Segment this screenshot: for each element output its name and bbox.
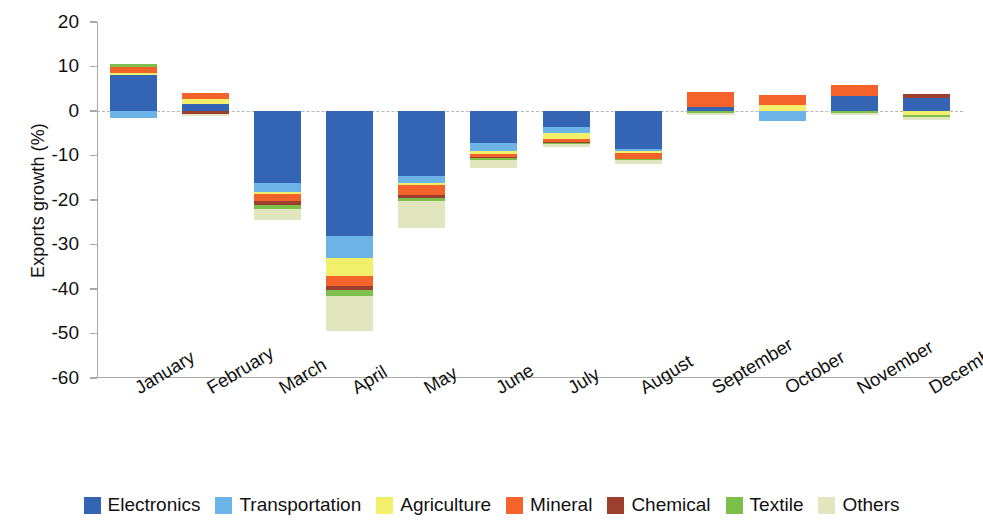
y-tick-mark: -40	[90, 288, 97, 289]
bar-segment	[110, 73, 157, 75]
bar-group[interactable]	[615, 22, 662, 378]
x-tick-label-october: October	[781, 380, 792, 399]
legend-item-others[interactable]: Others	[818, 494, 899, 516]
bar-segment	[470, 160, 517, 168]
bar-segment	[182, 93, 229, 99]
x-tick-label-december: December	[925, 380, 936, 399]
bar-segment	[759, 111, 806, 121]
y-tick-label: -10	[52, 144, 79, 166]
y-tick-label: -20	[52, 189, 79, 211]
bar-segment	[543, 111, 590, 127]
y-tick-mark: 0	[90, 110, 97, 111]
legend-item-transportation[interactable]: Transportation	[215, 494, 361, 516]
bar-segment	[903, 98, 950, 111]
legend-label: Electronics	[108, 494, 201, 516]
y-axis-line	[97, 22, 98, 378]
bar-group[interactable]	[398, 22, 445, 378]
legend-swatch-icon	[726, 497, 743, 514]
bar-segment	[110, 67, 157, 73]
y-tick-mark: -60	[90, 377, 97, 378]
y-axis-title: Exports growth (%)	[28, 71, 49, 331]
bar-segment	[903, 117, 950, 120]
x-tick-label-january: January	[131, 380, 142, 399]
bar-segment	[326, 276, 373, 286]
bar-segment	[831, 113, 878, 115]
y-tick-mark: -10	[90, 155, 97, 156]
legend-swatch-icon	[506, 497, 523, 514]
y-tick-mark: -50	[90, 333, 97, 334]
bar-group[interactable]	[470, 22, 517, 378]
bar-group[interactable]	[254, 22, 301, 378]
y-tick-label: 0	[68, 100, 79, 122]
bar-group[interactable]	[182, 22, 229, 378]
y-tick-mark: -30	[90, 244, 97, 245]
bar-segment	[615, 160, 662, 164]
x-tick-label-april: April	[348, 380, 359, 399]
y-tick-label: -50	[52, 322, 79, 344]
legend-item-chemical[interactable]: Chemical	[607, 494, 710, 516]
legend-swatch-icon	[376, 497, 393, 514]
bar-segment	[470, 111, 517, 143]
bar-segment	[326, 296, 373, 331]
x-tick-label-february: February	[203, 380, 214, 399]
x-tick-label-september: September	[708, 380, 719, 399]
bar-segment	[398, 201, 445, 227]
legend-label: Others	[842, 494, 899, 516]
bar-segment	[254, 183, 301, 191]
bar-segment	[398, 111, 445, 176]
y-tick-label: -60	[52, 367, 79, 389]
bar-group[interactable]	[110, 22, 157, 378]
bar-segment	[110, 64, 157, 67]
legend-label: Transportation	[239, 494, 361, 516]
legend-swatch-icon	[607, 497, 624, 514]
bar-segment	[398, 185, 445, 194]
x-tick-label-may: May	[420, 380, 431, 399]
legend-item-textile[interactable]: Textile	[726, 494, 804, 516]
plot-area: 20100-10-20-30-40-50-60	[97, 22, 963, 378]
x-tick-label-july: July	[564, 380, 575, 399]
bar-segment	[903, 94, 950, 98]
y-tick-label: 10	[58, 55, 79, 77]
bar-segment	[326, 236, 373, 258]
bar-segment	[687, 92, 734, 107]
bar-segment	[831, 85, 878, 96]
exports-growth-stacked-bar-chart: Exports growth (%) 20100-10-20-30-40-50-…	[0, 0, 983, 524]
x-tick-label-august: August	[636, 380, 647, 399]
bar-segment	[254, 209, 301, 220]
y-tick-mark: -20	[90, 199, 97, 200]
bar-segment	[831, 96, 878, 111]
y-tick-mark: 10	[90, 66, 97, 67]
x-tick-label-november: November	[853, 380, 864, 399]
y-tick-mark: 20	[90, 21, 97, 22]
bar-segment	[687, 113, 734, 116]
bar-segment	[470, 143, 517, 152]
bar-segment	[182, 99, 229, 104]
bar-segment	[254, 194, 301, 201]
legend-label: Agriculture	[400, 494, 491, 516]
bar-group[interactable]	[903, 22, 950, 378]
legend-item-mineral[interactable]: Mineral	[506, 494, 592, 516]
bar-segment	[759, 105, 806, 111]
bar-segment	[326, 111, 373, 236]
legend-swatch-icon	[84, 497, 101, 514]
bar-segment	[543, 144, 590, 147]
legend-item-agriculture[interactable]: Agriculture	[376, 494, 491, 516]
x-tick-label-june: June	[492, 380, 503, 399]
bar-group[interactable]	[831, 22, 878, 378]
bar-segment	[615, 111, 662, 149]
bar-segment	[254, 111, 301, 183]
bar-group[interactable]	[543, 22, 590, 378]
y-tick-label: 20	[58, 11, 79, 33]
bar-segment	[759, 95, 806, 105]
legend-label: Mineral	[530, 494, 592, 516]
legend-item-electronics[interactable]: Electronics	[84, 494, 201, 516]
bar-segment	[182, 104, 229, 111]
bar-segment	[326, 258, 373, 275]
legend-label: Chemical	[631, 494, 710, 516]
bar-group[interactable]	[326, 22, 373, 378]
bar-group[interactable]	[687, 22, 734, 378]
bar-group[interactable]	[759, 22, 806, 378]
bar-segment	[110, 75, 157, 111]
y-tick-label: -40	[52, 278, 79, 300]
x-axis-tick-labels: JanuaryFebruaryMarchAprilMayJuneJulyAugu…	[97, 380, 963, 480]
